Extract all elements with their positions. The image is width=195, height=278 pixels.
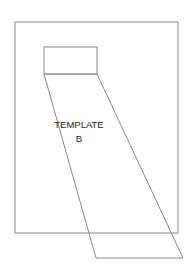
template-label-line2: B <box>54 132 104 146</box>
template-label-line1: TEMPLATE <box>54 118 104 132</box>
template-label: TEMPLATE B <box>54 118 104 146</box>
projection-parallelogram <box>44 74 183 258</box>
small-rectangle <box>44 47 97 74</box>
